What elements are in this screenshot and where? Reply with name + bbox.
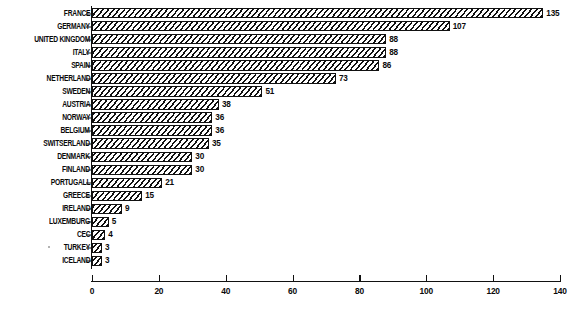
value-axis-tick bbox=[159, 275, 160, 282]
category-label: AUSTRIA bbox=[56, 101, 90, 109]
bar bbox=[92, 256, 102, 266]
bar-container bbox=[92, 165, 192, 175]
bar-row: ITALY88 bbox=[0, 46, 588, 59]
value-axis-tick-label: 80 bbox=[355, 287, 364, 295]
bar-container bbox=[92, 230, 105, 240]
bar-value-label: 51 bbox=[265, 88, 274, 96]
bar-row: SPAIN86 bbox=[0, 59, 588, 72]
bar-value-label: 38 bbox=[222, 101, 231, 109]
bar bbox=[92, 47, 386, 57]
bar-container bbox=[92, 256, 102, 266]
bar bbox=[92, 60, 379, 70]
bar-container bbox=[92, 47, 386, 57]
bar-value-label: 135 bbox=[546, 9, 559, 17]
bar-row: CEC4 bbox=[0, 229, 588, 242]
bar-value-label: 107 bbox=[453, 22, 466, 30]
category-label: ICELAND bbox=[56, 257, 90, 265]
bar-container bbox=[92, 86, 262, 96]
bar-container bbox=[92, 191, 142, 201]
category-label: BELGIUM bbox=[54, 127, 90, 135]
bar-row: AUSTRIA38 bbox=[0, 98, 588, 111]
bar bbox=[92, 21, 450, 31]
bar bbox=[92, 99, 219, 109]
bar-value-label: 35 bbox=[212, 140, 221, 148]
category-label: SWITSERLAND bbox=[33, 140, 90, 148]
bar-container bbox=[92, 204, 122, 214]
bar-chart: FRANCE135GERMANY107UNITED KINGDOM88ITALY… bbox=[0, 0, 588, 314]
bar bbox=[92, 191, 142, 201]
bar-container bbox=[92, 138, 209, 148]
value-axis-tick bbox=[359, 275, 360, 282]
bar-container bbox=[92, 8, 543, 18]
bar-container bbox=[92, 217, 109, 227]
value-axis-tick-label: 140 bbox=[553, 287, 566, 295]
bar-row: SWEDEN51 bbox=[0, 85, 588, 98]
bar-value-label: 36 bbox=[215, 114, 224, 122]
category-label: LUXEMBURG bbox=[40, 218, 90, 226]
bar bbox=[92, 178, 162, 188]
bar-value-label: 30 bbox=[195, 153, 204, 161]
bar-value-label: 36 bbox=[215, 127, 224, 135]
value-axis-line bbox=[91, 281, 560, 282]
category-label: DENMARK bbox=[50, 153, 90, 161]
bar-value-label: 5 bbox=[112, 218, 116, 226]
bar-value-label: 88 bbox=[389, 36, 398, 44]
value-axis-tick-label: 40 bbox=[221, 287, 230, 295]
value-axis-tick bbox=[493, 275, 494, 282]
bar-row: TURKEY3 bbox=[0, 242, 588, 255]
bar-value-label: 15 bbox=[145, 192, 154, 200]
bar bbox=[92, 34, 386, 44]
scan-speck bbox=[48, 246, 50, 248]
category-label: SWEDEN bbox=[56, 88, 90, 96]
bar-row: FINLAND30 bbox=[0, 164, 588, 177]
category-label: IRELAND bbox=[56, 205, 90, 213]
category-label: GERMANY bbox=[50, 22, 90, 30]
bar bbox=[92, 8, 543, 18]
value-axis-tick bbox=[226, 275, 227, 282]
bar-container bbox=[92, 99, 219, 109]
bar-row: GREECE15 bbox=[0, 190, 588, 203]
bar-container bbox=[92, 21, 450, 31]
bar-row: FRANCE135 bbox=[0, 7, 588, 20]
bar-row: LUXEMBURG5 bbox=[0, 216, 588, 229]
category-label: UNITED KINGDOM bbox=[22, 36, 90, 44]
bar-container bbox=[92, 73, 336, 83]
bar-value-label: 3 bbox=[105, 257, 109, 265]
bar-container bbox=[92, 152, 192, 162]
value-axis-tick-label: 20 bbox=[154, 287, 163, 295]
bar bbox=[92, 125, 212, 135]
bar-value-label: 4 bbox=[108, 231, 112, 239]
bar-value-label: 30 bbox=[195, 166, 204, 174]
bar-row: PORTUGALL21 bbox=[0, 177, 588, 190]
value-axis-tick-label: 120 bbox=[486, 287, 499, 295]
bar-value-label: 3 bbox=[105, 244, 109, 252]
value-axis-tick-label: 100 bbox=[420, 287, 433, 295]
bar-value-label: 21 bbox=[165, 179, 174, 187]
bar-row: UNITED KINGDOM88 bbox=[0, 33, 588, 46]
value-axis-tick-label: 0 bbox=[90, 287, 94, 295]
bar-container bbox=[92, 112, 212, 122]
bar-value-label: 86 bbox=[382, 62, 391, 70]
bar bbox=[92, 152, 192, 162]
bar-container bbox=[92, 60, 379, 70]
bar bbox=[92, 204, 122, 214]
bar-container bbox=[92, 125, 212, 135]
category-label: PORTUGALL bbox=[42, 179, 90, 187]
value-axis-tick bbox=[560, 275, 561, 282]
bar bbox=[92, 73, 336, 83]
bar-row: ICELAND3 bbox=[0, 255, 588, 268]
bar-rows: FRANCE135GERMANY107UNITED KINGDOM88ITALY… bbox=[0, 7, 588, 268]
value-axis-tick bbox=[293, 275, 294, 282]
bar bbox=[92, 138, 209, 148]
bar bbox=[92, 243, 102, 253]
bar bbox=[92, 112, 212, 122]
bar bbox=[92, 165, 192, 175]
category-label: NORWAY bbox=[56, 114, 90, 122]
bar-container bbox=[92, 34, 386, 44]
category-label: FINLAND bbox=[56, 166, 90, 174]
bar-row: GERMANY107 bbox=[0, 20, 588, 33]
bar-row: IRELAND9 bbox=[0, 203, 588, 216]
bar-row: NORWAY36 bbox=[0, 111, 588, 124]
bar bbox=[92, 230, 105, 240]
category-label: NETHERLAND bbox=[37, 75, 90, 83]
